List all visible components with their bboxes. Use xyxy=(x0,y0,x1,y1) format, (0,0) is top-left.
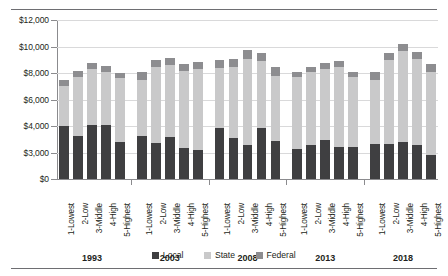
stacked-bar[interactable] xyxy=(348,72,358,179)
bar-segment-local xyxy=(115,142,125,179)
stacked-bar[interactable] xyxy=(426,64,436,179)
top-rule xyxy=(11,9,437,10)
stacked-bar[interactable] xyxy=(87,63,97,179)
bottom-rule xyxy=(11,268,437,269)
legend-item[interactable]: State xyxy=(204,250,235,260)
bar-segment-federal xyxy=(320,63,330,69)
stacked-bar[interactable] xyxy=(271,67,281,179)
bar-segment-local xyxy=(398,142,408,179)
bar-segment-federal xyxy=(384,53,394,60)
category-label: 4-High xyxy=(265,203,274,226)
legend-label: State xyxy=(215,250,235,260)
bar-segment-local xyxy=(73,136,83,179)
stacked-bar[interactable] xyxy=(215,60,225,180)
stacked-bar[interactable] xyxy=(398,44,408,179)
category-label: 3-Middle xyxy=(95,203,104,233)
stacked-bar[interactable] xyxy=(370,72,380,179)
category-label: 4-High xyxy=(420,203,429,226)
y-axis-tick xyxy=(51,179,57,180)
legend-swatch-local xyxy=(152,252,159,259)
bar-segment-federal xyxy=(229,59,239,67)
bar-segment-federal xyxy=(151,60,161,67)
category-label: 1-Lowest xyxy=(145,203,154,235)
legend-item[interactable]: Federal xyxy=(256,250,296,260)
y-axis-tick-label: $8,000 xyxy=(24,68,49,78)
stacked-bar[interactable] xyxy=(320,63,330,179)
bar-segment-federal xyxy=(412,52,422,59)
bar-segment-state xyxy=(101,72,111,126)
legend-label: Federal xyxy=(266,250,295,260)
stacked-bar[interactable] xyxy=(412,52,422,179)
stacked-bar[interactable] xyxy=(306,67,316,179)
bar-segment-state xyxy=(306,72,316,144)
bar-segment-federal xyxy=(348,72,358,77)
figure: $0$3,000$4,000$6,000$8,000$10,000$12,000… xyxy=(0,0,448,276)
group-separator xyxy=(131,179,132,185)
bar-segment-federal xyxy=(59,80,69,86)
y-axis-tick xyxy=(51,47,57,48)
stacked-bar[interactable] xyxy=(73,71,83,179)
bar-segment-federal xyxy=(398,44,408,52)
bar-segment-local xyxy=(165,137,175,179)
y-axis-tick-label: $4,000 xyxy=(24,121,49,131)
stacked-bar[interactable] xyxy=(59,80,69,179)
stacked-bar[interactable] xyxy=(137,72,147,179)
bar-segment-state xyxy=(115,78,125,142)
bar-segment-local xyxy=(87,125,97,179)
bar-segment-state xyxy=(412,59,422,145)
category-label: 4-High xyxy=(187,203,196,226)
stacked-bar[interactable] xyxy=(115,73,125,179)
legend-swatch-federal xyxy=(256,252,263,259)
bar-segment-local xyxy=(229,138,239,179)
y-axis-tick-label: $0 xyxy=(40,174,49,184)
bar-segment-federal xyxy=(292,72,302,77)
stacked-bar[interactable] xyxy=(101,66,111,179)
stacked-bar[interactable] xyxy=(229,59,239,179)
bar-segment-local xyxy=(348,147,358,179)
stacked-bar[interactable] xyxy=(179,64,189,179)
stacked-bar[interactable] xyxy=(292,72,302,179)
bar-segment-federal xyxy=(215,60,225,68)
bar-segment-local xyxy=(179,148,189,179)
bar-segment-local xyxy=(370,144,380,179)
legend-item[interactable]: Local xyxy=(152,250,183,260)
gridline xyxy=(57,20,438,21)
stacked-bar[interactable] xyxy=(165,58,175,179)
stacked-bar[interactable] xyxy=(243,50,253,179)
stacked-bar[interactable] xyxy=(384,53,394,179)
y-axis-tick xyxy=(51,153,57,154)
y-axis-tick xyxy=(51,126,57,127)
bar-segment-local xyxy=(334,147,344,179)
category-label: 3-Middle xyxy=(173,203,182,233)
chart-legend: LocalStateFederal xyxy=(0,250,448,260)
bar-segment-state xyxy=(384,60,394,144)
category-label: 5-Highest xyxy=(434,203,443,237)
bar-segment-state xyxy=(73,77,83,136)
bar-segment-federal xyxy=(426,64,436,71)
bar-segment-state xyxy=(243,59,253,145)
y-axis-tick xyxy=(51,73,57,74)
stacked-bar[interactable] xyxy=(193,62,203,179)
bar-segment-federal xyxy=(257,53,267,61)
bar-segment-state xyxy=(151,67,161,142)
bar-segment-state xyxy=(426,72,436,155)
bar-segment-local xyxy=(193,150,203,179)
stacked-bar[interactable] xyxy=(257,53,267,179)
gridline xyxy=(57,179,438,180)
bar-segment-local xyxy=(412,145,422,179)
category-label: 4-High xyxy=(109,203,118,226)
legend-label: Local xyxy=(163,250,184,260)
category-label: 5-Highest xyxy=(123,203,132,237)
category-label: 3-Middle xyxy=(251,203,260,233)
bar-segment-state xyxy=(179,71,189,148)
group-separator xyxy=(286,179,287,185)
bar-segment-local xyxy=(151,143,161,179)
stacked-bar[interactable] xyxy=(334,61,344,179)
bar-segment-federal xyxy=(179,64,189,71)
stacked-bar[interactable] xyxy=(151,60,161,179)
bar-segment-state xyxy=(271,76,281,142)
bar-segment-state xyxy=(348,77,358,147)
bar-segment-federal xyxy=(73,71,83,77)
bar-segment-federal xyxy=(334,61,344,67)
bar-segment-local xyxy=(59,126,69,179)
